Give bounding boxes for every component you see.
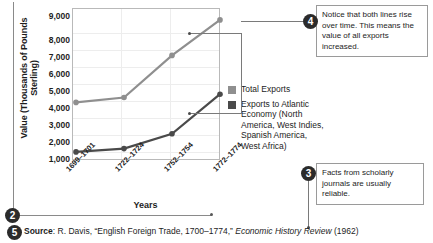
legend-swatch-icon-total — [228, 86, 236, 94]
callout-2-connector — [20, 215, 212, 216]
legend-label-atlantic: Exports to Atlantic Economy (North Ameri… — [241, 99, 324, 152]
y-tick-7000: 7,000 — [30, 52, 70, 62]
annotation-note-4: Notice that both lines rise over time. T… — [316, 5, 428, 57]
chart-legend: Total Exports Exports to Atlantic Econom… — [228, 84, 324, 155]
callout-2-connector-dot — [210, 213, 213, 216]
figure-root: Value (Thousands of Pounds Sterling) 1,0… — [0, 0, 433, 243]
y-axis-ticks: 1,000 2,000 3,000 4,000 5,000 6,000 7,00… — [26, 8, 70, 160]
source-author: R. Davis, — [58, 226, 95, 236]
callout-4-stem — [241, 21, 303, 22]
left-spine-line — [13, 2, 14, 210]
callout-badge-5[interactable]: 5 — [7, 225, 22, 240]
source-journal: Economic History Review — [235, 226, 331, 236]
source-label: Source — [24, 226, 53, 236]
y-tick-2000: 2,000 — [30, 137, 70, 147]
legend-label-total: Total Exports — [241, 84, 290, 95]
y-tick-4000: 4,000 — [30, 103, 70, 113]
callout-4-bracket — [241, 33, 242, 114]
callout-badge-4[interactable]: 4 — [303, 14, 318, 29]
annotation-note-4-text: Notice that both lines rise over time. T… — [322, 10, 414, 51]
y-tick-6000: 6,000 — [30, 69, 70, 79]
y-tick-3000: 3,000 — [30, 120, 70, 130]
plot-area — [72, 8, 220, 160]
x-axis-ticks: 1699–1701 1722–1724 1752–1754 1772–1774 — [72, 163, 232, 203]
y-tick-1000: 1,000 — [30, 154, 70, 164]
points-total-exports — [73, 17, 223, 105]
callout-badge-2[interactable]: 2 — [5, 208, 20, 223]
legend-item-atlantic-exports: Exports to Atlantic Economy (North Ameri… — [228, 99, 324, 152]
callout-4-dot-bottom — [188, 112, 191, 115]
x-axis-title: Years — [68, 200, 223, 210]
annotation-note-3: Facts from scholarly journals are usuall… — [316, 163, 424, 205]
callout-badge-3[interactable]: 3 — [301, 166, 316, 181]
callout-3-connector — [308, 181, 309, 228]
series-lines — [73, 9, 221, 161]
y-tick-5000: 5,000 — [30, 86, 70, 96]
callout-4-dot-top — [188, 32, 191, 35]
y-tick-9000: 9,000 — [30, 11, 70, 21]
line-atlantic-exports — [76, 94, 220, 152]
legend-item-total-exports: Total Exports — [228, 84, 324, 95]
source-article: “English Foreign Trade, 1700–1774,” — [94, 226, 235, 236]
source-line: Source: R. Davis, “English Foreign Trade… — [24, 226, 359, 236]
legend-swatch-icon-atlantic — [228, 101, 236, 109]
annotation-note-3-text: Facts from scholarly journals are usuall… — [322, 168, 394, 198]
callout-4-lead-top — [190, 33, 242, 34]
callout-4-lead-bottom — [190, 113, 242, 114]
y-tick-8000: 8,000 — [30, 35, 70, 45]
source-year: (1962) — [332, 226, 359, 236]
